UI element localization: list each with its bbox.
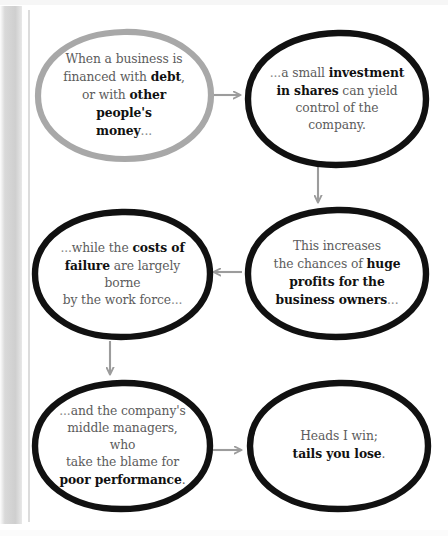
node-text: This increasesthe chances of hugeprofits… [248,238,427,309]
node-huge-profits-business-owners[interactable]: This increasesthe chances of hugeprofits… [243,205,431,342]
node-financed-with-debt[interactable]: When a business isfinanced with debt,or … [33,28,215,163]
node-text: ...a small investmentin shares can yield… [243,64,431,134]
node-heads-i-win-tails-you-lose[interactable]: Heads I win;tails you lose. [245,378,433,513]
node-text: When a business isfinanced with debt,or … [33,51,215,140]
node-small-investment-in-shares[interactable]: ...a small investmentin shares can yield… [243,28,431,170]
node-text: ...and the company'smiddle managers, who… [30,403,215,489]
node-middle-managers-poor-performance[interactable]: ...and the company'smiddle managers, who… [30,378,215,513]
node-costs-of-failure-work-force[interactable]: ...while the costs offailure are largely… [30,207,215,341]
diagram-page: When a business isfinanced with debt,or … [0,0,448,536]
node-text: Heads I win;tails you lose. [267,428,412,463]
node-text: ...while the costs offailure are largely… [30,239,215,309]
